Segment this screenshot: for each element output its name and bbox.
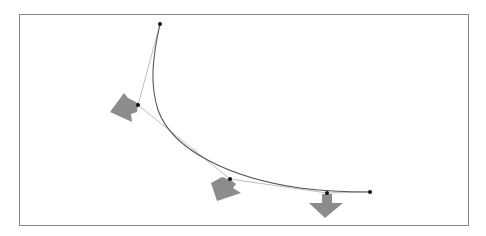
control-point-1[interactable]	[136, 103, 140, 107]
control-point-4[interactable]	[368, 190, 372, 194]
control-point-0[interactable]	[158, 22, 162, 26]
control-polygon	[138, 24, 370, 193]
control-point-3[interactable]	[325, 191, 329, 195]
diagram-canvas	[0, 0, 486, 236]
arrow-2	[211, 177, 241, 201]
bezier-curve	[153, 24, 370, 192]
arrow-1	[110, 93, 138, 122]
arrow-3	[309, 194, 343, 218]
control-point-2[interactable]	[228, 177, 232, 181]
bezier-diagram	[0, 0, 486, 236]
